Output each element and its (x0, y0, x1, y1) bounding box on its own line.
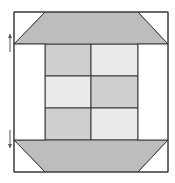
quilt-block-diagram (0, 0, 175, 183)
side-strip-right (138, 44, 168, 140)
grid-cell (91, 76, 138, 108)
grid-cell (45, 44, 91, 76)
grid-cell (45, 108, 91, 140)
side-strip-left (14, 44, 45, 140)
grid-cell (91, 108, 138, 140)
grid-cell (45, 76, 91, 108)
grid-cells (45, 44, 138, 140)
grid-cell (91, 44, 138, 76)
